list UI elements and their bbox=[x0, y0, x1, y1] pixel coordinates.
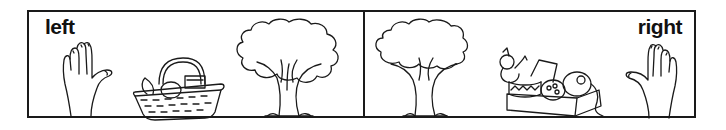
picnic-basket-icon bbox=[131, 54, 227, 120]
right-hand-icon bbox=[619, 42, 683, 122]
left-panel: left bbox=[29, 12, 363, 116]
worksheet-frame: left bbox=[27, 10, 696, 118]
right-label: right bbox=[638, 16, 682, 37]
left-hand-icon bbox=[57, 40, 117, 120]
tree-icon bbox=[371, 18, 487, 118]
tree-icon bbox=[229, 16, 349, 118]
toy-box-icon bbox=[493, 46, 623, 120]
right-panel: right bbox=[365, 12, 694, 116]
left-label: left bbox=[45, 16, 75, 37]
